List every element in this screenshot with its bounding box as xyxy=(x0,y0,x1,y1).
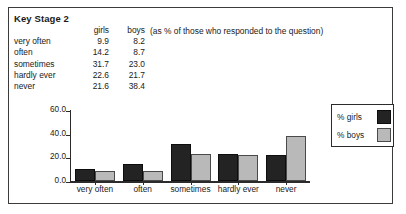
bar-boys xyxy=(191,154,211,181)
bar-girls xyxy=(171,144,191,182)
legend-item-boys: % boys xyxy=(337,128,391,142)
bar-group xyxy=(75,110,115,181)
cell-girls: 9.9 xyxy=(76,36,112,47)
bar-group xyxy=(266,110,306,181)
cell-boys: 23.0 xyxy=(112,59,148,70)
table-row: sometimes31.723.0 xyxy=(14,59,148,70)
y-axis-tick: 20.0 xyxy=(16,153,70,161)
cell-girls: 14.2 xyxy=(76,47,112,58)
cell-category: sometimes xyxy=(14,59,76,70)
bar-girls xyxy=(218,154,238,181)
cell-boys: 8.7 xyxy=(112,47,148,58)
column-header-boys: boys xyxy=(112,25,148,36)
table-row: never21.638.4 xyxy=(14,81,148,92)
bar-chart: 0.020.040.060.0 very oftenoftensometimes… xyxy=(14,104,386,196)
data-table: girls boys very often9.98.2often14.28.7s… xyxy=(14,25,148,92)
cell-category: very often xyxy=(14,36,76,47)
y-axis: 0.020.040.060.0 xyxy=(14,104,70,182)
bar-group xyxy=(218,110,258,181)
bar-boys xyxy=(95,171,115,181)
bar-boys xyxy=(238,155,258,181)
legend-label-boys: % boys xyxy=(337,130,364,140)
figure-page: Key Stage 2 (as % of those who responded… xyxy=(0,0,406,214)
x-axis-label: hardly ever xyxy=(214,184,262,194)
chart-note: (as % of those who responded to the ques… xyxy=(150,26,323,36)
x-axis-label: never xyxy=(262,184,310,194)
x-axis-label: sometimes xyxy=(167,184,215,194)
x-axis-label: very often xyxy=(71,184,119,194)
cell-girls: 21.6 xyxy=(76,81,112,92)
cell-boys: 21.7 xyxy=(112,70,148,81)
table-row: hardly ever22.621.7 xyxy=(14,70,148,81)
bar-group xyxy=(171,110,211,181)
cell-category: often xyxy=(14,47,76,58)
cell-boys: 8.2 xyxy=(112,36,148,47)
table-row: often14.28.7 xyxy=(14,47,148,58)
legend-swatch-boys-icon xyxy=(377,128,391,142)
bar-group xyxy=(123,110,163,181)
bar-boys xyxy=(143,171,163,181)
bar-girls xyxy=(266,155,286,181)
y-axis-tick: 0.0 xyxy=(16,177,70,185)
y-axis-tick: 40.0 xyxy=(16,130,70,138)
table-header-row: girls boys xyxy=(14,25,148,36)
legend-item-girls: % girls xyxy=(337,110,391,124)
chart-legend: % girls % boys xyxy=(331,104,394,147)
x-axis-label: often xyxy=(119,184,167,194)
legend-swatch-girls-icon xyxy=(377,110,391,124)
y-axis-tick: 60.0 xyxy=(16,106,70,114)
legend-label-girls: % girls xyxy=(337,112,362,122)
plot-area xyxy=(71,110,310,181)
cell-category: never xyxy=(14,81,76,92)
column-header-girls: girls xyxy=(76,25,112,36)
cell-girls: 22.6 xyxy=(76,70,112,81)
bar-girls xyxy=(123,164,143,181)
cell-girls: 31.7 xyxy=(76,59,112,70)
column-header-category xyxy=(14,25,76,36)
cell-category: hardly ever xyxy=(14,70,76,81)
bar-girls xyxy=(75,169,95,181)
cell-boys: 38.4 xyxy=(112,81,148,92)
page-title: Key Stage 2 xyxy=(14,13,69,24)
table-row: very often9.98.2 xyxy=(14,36,148,47)
bar-boys xyxy=(286,136,306,181)
